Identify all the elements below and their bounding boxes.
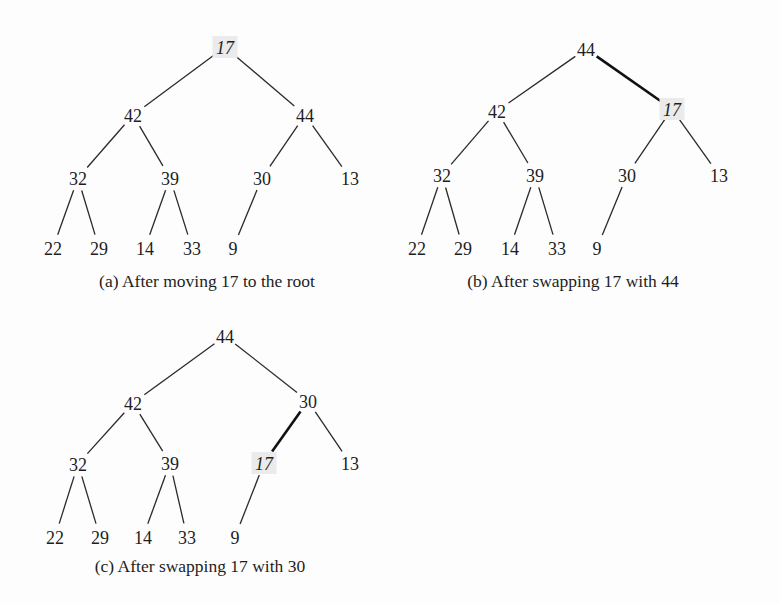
tree-edge <box>235 344 297 392</box>
tree-edge <box>240 475 259 524</box>
node-label: 29 <box>91 528 109 548</box>
tree-edge <box>270 126 298 167</box>
panel-b-tree: 44421732393013222914339(b) After swappin… <box>408 40 728 292</box>
tree-node: 32 <box>69 169 87 189</box>
node-label: 9 <box>229 239 238 259</box>
tree-edge <box>148 475 166 524</box>
node-label: 13 <box>710 166 728 186</box>
tree-edge <box>313 126 342 167</box>
node-label: 44 <box>577 40 595 60</box>
tree-node: 39 <box>161 454 179 474</box>
tree-node: 30 <box>618 166 636 186</box>
tree-node: 32 <box>69 455 87 475</box>
tree-node: 22 <box>46 528 64 548</box>
node-label: 42 <box>488 102 506 122</box>
tree-edge <box>235 55 294 106</box>
tree-node: 30 <box>253 169 271 189</box>
node-label: 17 <box>255 454 274 474</box>
tree-node: 29 <box>454 239 472 259</box>
node-label: 39 <box>161 169 179 189</box>
tree-edge <box>144 55 214 107</box>
edges <box>422 56 711 235</box>
tree-edge <box>446 188 460 235</box>
node-label: 22 <box>46 528 64 548</box>
node-label: 22 <box>44 239 62 259</box>
node-label: 30 <box>299 392 317 412</box>
tree-edge <box>509 56 576 103</box>
tree-edge <box>680 120 711 164</box>
node-label: 32 <box>69 169 87 189</box>
tree-edge <box>82 476 96 523</box>
tree-node: 29 <box>91 528 109 548</box>
tree-node: 29 <box>90 239 108 259</box>
node-label: 13 <box>341 454 359 474</box>
tree-node: 14 <box>136 239 154 259</box>
tree-edge <box>602 187 622 235</box>
tree-edge <box>422 187 438 235</box>
tree-node: 33 <box>548 239 566 259</box>
tree-edge <box>635 120 665 164</box>
node-label: 33 <box>548 239 566 259</box>
swap-edge <box>272 412 300 452</box>
tree-edge <box>82 191 95 235</box>
node-label: 39 <box>161 454 179 474</box>
highlighted-node: 17 <box>660 98 685 120</box>
tree-edge <box>140 414 163 451</box>
panel-caption: (c) After swapping 17 with 30 <box>95 556 306 576</box>
node-label: 44 <box>216 327 234 347</box>
tree-edge <box>238 190 257 235</box>
node-label: 33 <box>183 239 201 259</box>
tree-edge <box>59 476 74 523</box>
node-label: 39 <box>526 166 544 186</box>
tree-edge <box>539 187 553 234</box>
tree-node: 13 <box>341 454 359 474</box>
tree-node: 30 <box>299 392 317 412</box>
node-label: 42 <box>124 106 142 126</box>
tree-node: 42 <box>124 106 142 126</box>
node-label: 29 <box>90 239 108 259</box>
panel-caption: (a) After moving 17 to the root <box>99 271 315 291</box>
node-label: 9 <box>593 239 602 259</box>
swap-edge <box>597 56 661 101</box>
tree-node: 13 <box>341 169 359 189</box>
node-label: 17 <box>663 100 682 120</box>
edges <box>59 344 342 524</box>
node-label: 14 <box>134 528 152 548</box>
tree-node: 33 <box>183 239 201 259</box>
highlighted-node: 17 <box>213 36 238 58</box>
highlighted-node: 17 <box>252 452 277 474</box>
node-label: 14 <box>136 239 154 259</box>
node-label: 32 <box>433 166 451 186</box>
tree-node: 13 <box>710 166 728 186</box>
node-label: 33 <box>178 528 196 548</box>
tree-node: 14 <box>501 239 519 259</box>
tree-edge <box>174 190 188 234</box>
tree-edge <box>504 122 528 163</box>
panel-a-tree: 17424432393013222914339(a) After moving … <box>44 36 359 291</box>
tree-edge <box>515 187 531 235</box>
node-label: 22 <box>408 239 426 259</box>
tree-edge <box>140 126 163 166</box>
node-label: 30 <box>618 166 636 186</box>
tree-edge <box>150 190 166 235</box>
tree-node: 22 <box>44 239 62 259</box>
tree-node: 39 <box>526 166 544 186</box>
tree-node: 44 <box>216 327 234 347</box>
tree-node: 39 <box>161 169 179 189</box>
tree-node: 44 <box>296 106 314 126</box>
tree-edge <box>144 344 214 395</box>
tree-node: 32 <box>433 166 451 186</box>
node-label: 9 <box>231 528 240 548</box>
node-label: 30 <box>253 169 271 189</box>
node-label: 42 <box>124 394 142 414</box>
tree-node: 22 <box>408 239 426 259</box>
panel-caption: (b) After swapping 17 with 44 <box>467 271 679 291</box>
node-label: 17 <box>216 38 235 58</box>
edges <box>58 55 342 235</box>
tree-edge <box>87 413 124 454</box>
node-label: 13 <box>341 169 359 189</box>
tree-edge <box>58 190 74 235</box>
tree-node: 9 <box>229 239 238 259</box>
tree-edge <box>451 121 488 164</box>
tree-node: 44 <box>577 40 595 60</box>
